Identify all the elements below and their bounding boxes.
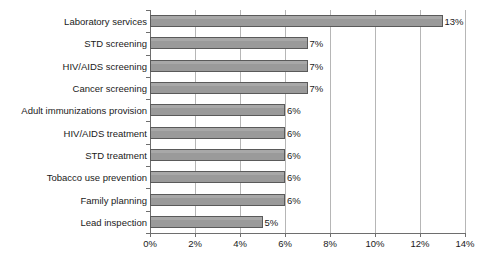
bar-highlight xyxy=(151,38,307,41)
x-axis-tick xyxy=(420,233,421,237)
x-axis-label: 8% xyxy=(310,238,350,249)
category-label: Adult immunizations provision xyxy=(21,105,147,116)
x-axis-label: 0% xyxy=(130,238,170,249)
bar xyxy=(150,104,285,116)
y-axis-tick xyxy=(146,121,150,122)
x-axis-tick xyxy=(240,233,241,237)
y-axis-tick xyxy=(146,166,150,167)
chart-row: Lead inspection 5% xyxy=(0,211,481,233)
bar-highlight xyxy=(151,195,284,198)
x-axis-label: 4% xyxy=(220,238,260,249)
bar-highlight xyxy=(151,105,284,108)
value-label: 7% xyxy=(310,38,324,49)
bar xyxy=(150,149,285,161)
x-axis-label: 2% xyxy=(175,238,215,249)
x-axis-tick xyxy=(330,233,331,237)
x-axis-label: 12% xyxy=(400,238,440,249)
y-axis-tick xyxy=(146,77,150,78)
category-label: STD treatment xyxy=(85,149,147,160)
bar xyxy=(150,171,285,183)
bar xyxy=(150,82,308,94)
bar-highlight xyxy=(151,61,307,64)
bar xyxy=(150,194,285,206)
value-label: 13% xyxy=(445,16,464,27)
value-label: 6% xyxy=(287,127,301,138)
category-label: HIV/AIDS treatment xyxy=(64,127,147,138)
value-label: 6% xyxy=(287,194,301,205)
bar-highlight xyxy=(151,150,284,153)
value-label: 7% xyxy=(310,60,324,71)
category-label: Tobacco use prevention xyxy=(47,172,147,183)
x-axis-tick xyxy=(150,233,151,237)
x-axis-label: 14% xyxy=(445,238,481,249)
category-label: Cancer screening xyxy=(73,83,147,94)
bar-chart: Laboratory services 13% STD screening 7%… xyxy=(0,0,481,259)
chart-row: Cancer screening 7% xyxy=(0,77,481,99)
category-label: Lead inspection xyxy=(80,216,147,227)
x-axis-label: 10% xyxy=(355,238,395,249)
bar-highlight xyxy=(151,83,307,86)
bar-highlight xyxy=(151,172,284,175)
bar-highlight xyxy=(151,217,262,220)
y-axis-tick xyxy=(146,188,150,189)
chart-row: STD screening 7% xyxy=(0,32,481,54)
chart-row: HIV/AIDS treatment 6% xyxy=(0,122,481,144)
chart-row: Adult immunizations provision 6% xyxy=(0,99,481,121)
y-axis-tick xyxy=(146,55,150,56)
x-axis-tick xyxy=(195,233,196,237)
category-label: Family planning xyxy=(80,194,147,205)
bar-highlight xyxy=(151,16,442,19)
bar xyxy=(150,60,308,72)
y-axis-tick xyxy=(146,32,150,33)
value-label: 6% xyxy=(287,105,301,116)
bar xyxy=(150,216,263,228)
value-label: 6% xyxy=(287,172,301,183)
bar xyxy=(150,127,285,139)
chart-row: Tobacco use prevention 6% xyxy=(0,166,481,188)
y-axis-tick xyxy=(146,144,150,145)
x-axis-tick xyxy=(465,233,466,237)
chart-row: Family planning 6% xyxy=(0,188,481,210)
chart-row: Laboratory services 13% xyxy=(0,10,481,32)
category-label: HIV/AIDS screening xyxy=(63,60,147,71)
bar xyxy=(150,15,443,27)
y-axis-tick xyxy=(146,211,150,212)
value-label: 6% xyxy=(287,149,301,160)
x-axis-tick xyxy=(285,233,286,237)
chart-row: HIV/AIDS screening 7% xyxy=(0,55,481,77)
bar xyxy=(150,37,308,49)
x-axis-line xyxy=(150,233,466,234)
value-label: 7% xyxy=(310,83,324,94)
y-axis-tick xyxy=(146,10,150,11)
x-axis-tick xyxy=(375,233,376,237)
x-axis-label: 6% xyxy=(265,238,305,249)
value-label: 5% xyxy=(265,216,279,227)
y-axis-tick xyxy=(146,99,150,100)
category-label: Laboratory services xyxy=(64,16,147,27)
chart-row: STD treatment 6% xyxy=(0,144,481,166)
category-label: STD screening xyxy=(84,38,147,49)
bar-highlight xyxy=(151,128,284,131)
